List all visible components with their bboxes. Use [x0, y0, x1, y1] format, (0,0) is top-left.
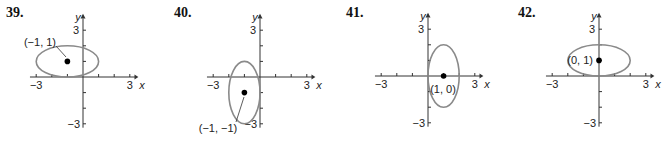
- y-tick-label: 3: [589, 23, 595, 35]
- y-axis-label: y: [74, 11, 82, 23]
- center-point: [441, 73, 447, 79]
- x-tick-label: −3: [30, 79, 43, 91]
- x-axis-label: x: [654, 78, 661, 90]
- x-axis-arrow-icon: [650, 74, 654, 79]
- x-tick-label: 3: [643, 78, 649, 90]
- center-label: (−1, 1): [24, 36, 56, 48]
- x-tick-label: 3: [304, 79, 310, 91]
- x-axis-label: x: [138, 79, 145, 91]
- x-axis-arrow-icon: [134, 75, 138, 80]
- center-label: (−1, −1): [199, 122, 238, 134]
- graph-40: −33x3−3y(−1, −1): [199, 11, 322, 134]
- y-tick-label: −3: [412, 117, 425, 129]
- x-axis-arrow-icon: [311, 75, 315, 80]
- y-axis-arrow-icon: [81, 14, 86, 19]
- center-point: [65, 59, 71, 65]
- graph-39: −33x3−3y(−1, 1): [24, 11, 145, 130]
- y-tick-label: 3: [250, 24, 256, 36]
- x-axis-label: x: [315, 79, 322, 91]
- graph-41: −33x3−3y(1, 0): [375, 10, 490, 129]
- x-tick-label: −3: [375, 78, 388, 90]
- y-tick-label: −3: [583, 117, 596, 129]
- center-label: (0, 1): [567, 54, 593, 66]
- x-tick-label: 3: [127, 79, 133, 91]
- y-tick-label: 3: [73, 24, 79, 36]
- center-label: (1, 0): [430, 83, 456, 95]
- y-axis-arrow-icon: [426, 13, 431, 18]
- x-tick-label: −3: [546, 78, 559, 90]
- y-axis-label: y: [251, 11, 259, 23]
- leader-line: [236, 97, 244, 122]
- y-axis-arrow-icon: [258, 14, 263, 19]
- x-axis-arrow-icon: [479, 74, 483, 79]
- x-tick-label: 3: [472, 78, 478, 90]
- y-axis-arrow-icon: [597, 13, 602, 18]
- ellipse-graphs: −33x3−3y(−1, 1)−33x3−3y(−1, −1)−33x3−3y(…: [0, 0, 667, 144]
- graph-42: −33x3−3y(0, 1): [546, 10, 661, 129]
- y-axis-label: y: [590, 10, 598, 22]
- x-tick-label: −3: [207, 79, 220, 91]
- center-point: [596, 58, 602, 64]
- y-tick-label: 3: [418, 23, 424, 35]
- y-axis-label: y: [419, 10, 427, 22]
- center-point: [242, 90, 248, 96]
- x-axis-label: x: [483, 78, 490, 90]
- y-tick-label: −3: [67, 118, 80, 130]
- leader-line: [56, 46, 66, 57]
